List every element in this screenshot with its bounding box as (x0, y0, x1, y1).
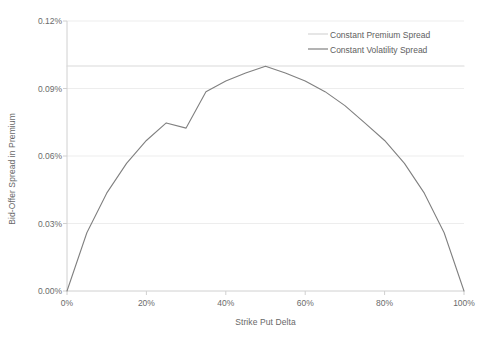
x-tick-label: 60% (281, 298, 329, 308)
x-tick-label: 100% (440, 298, 482, 308)
x-tick-label: 40% (202, 298, 250, 308)
y-axis-title: Bid-Offer Spread in Premium (7, 69, 17, 269)
y-tick-label: 0.09% (18, 84, 62, 94)
y-tick-label: 0.06% (18, 151, 62, 161)
x-tick-label: 20% (122, 298, 170, 308)
legend-item-constant-premium-spread[interactable]: Constant Premium Spread (330, 30, 430, 40)
series-line-1 (67, 66, 464, 291)
y-axis-tick-labels: 0.00%0.03%0.06%0.09%0.12% (16, 0, 62, 338)
data-series (67, 66, 464, 291)
y-tick-label: 0.12% (18, 16, 62, 26)
x-axis-title: Strike Put Delta (67, 317, 464, 327)
tick-marks (63, 21, 464, 295)
legend-swatches (308, 34, 328, 49)
x-tick-label: 0% (43, 298, 91, 308)
chart-container: 0.00%0.03%0.06%0.09%0.12% Bid-Offer Spre… (0, 0, 482, 338)
y-tick-label: 0.03% (18, 219, 62, 229)
x-tick-label: 80% (361, 298, 409, 308)
y-tick-label: 0.00% (18, 286, 62, 296)
legend-item-constant-volatility-spread[interactable]: Constant Volatility Spread (330, 45, 427, 55)
